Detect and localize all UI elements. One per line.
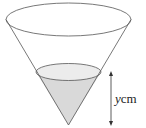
cone-rim xyxy=(6,3,131,36)
depth-arrow xyxy=(109,71,113,126)
depth-label: ycm xyxy=(115,92,137,105)
liquid-surface xyxy=(36,64,101,81)
depth-unit: cm xyxy=(121,91,137,106)
cone-diagram xyxy=(0,0,146,128)
